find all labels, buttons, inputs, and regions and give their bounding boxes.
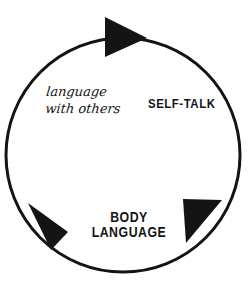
arrow-bottom-right-icon [183, 199, 222, 243]
label-body-language-line-2: LANGUAGE [92, 225, 167, 240]
label-body-language-line-1: BODY [92, 210, 167, 225]
cycle-diagram-graphic [0, 0, 248, 285]
arrow-top-icon [105, 17, 147, 57]
label-self-talk: SELF-TALK [148, 97, 215, 111]
label-language-with-others-line-2: with others [43, 101, 121, 118]
label-body-language: BODY LANGUAGE [92, 210, 167, 240]
label-language-with-others-line-1: language [45, 84, 123, 101]
label-language-with-others: language with others [43, 84, 123, 118]
cycle-diagram: SELF-TALK BODY LANGUAGE language with ot… [0, 0, 248, 285]
arrow-bottom-left-icon [28, 203, 68, 250]
